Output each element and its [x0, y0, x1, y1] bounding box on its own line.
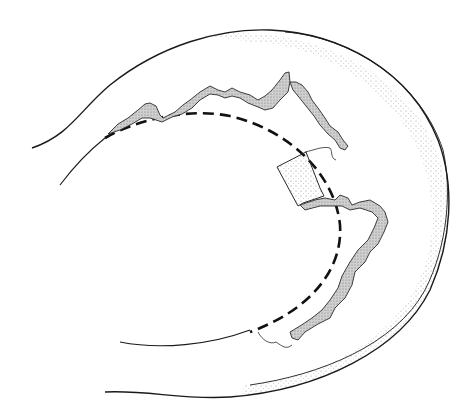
diagram-canvas	[0, 0, 471, 419]
anatomical-illustration	[0, 0, 471, 419]
jagged-margin-top	[108, 72, 290, 134]
dashed-boundary	[105, 113, 340, 332]
jagged-margin-right	[290, 82, 348, 150]
thin-connector	[305, 147, 336, 160]
thin-connector-lower	[258, 332, 292, 347]
inner-curve-left	[60, 138, 105, 185]
stippled-band	[200, 33, 448, 395]
stippled-flap	[277, 152, 324, 206]
jagged-margin-lower	[290, 195, 388, 340]
inner-curve-bottom	[120, 330, 250, 346]
